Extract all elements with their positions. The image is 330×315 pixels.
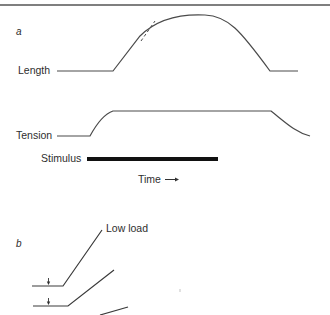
time-label: Time [138, 173, 161, 185]
tension-label: Tension [16, 129, 52, 141]
medium-load-trace [33, 270, 114, 306]
high-load-trace [100, 307, 128, 315]
muscle-contraction-figure: a Length Tension Stimulus Time b Low loa… [0, 0, 330, 315]
time-arrow-head [175, 178, 179, 182]
stimulus-label: Stimulus [41, 152, 81, 164]
tension-trace [57, 111, 310, 136]
latency-arrow-icon [47, 298, 50, 305]
tangent-dashed-line [141, 21, 155, 41]
length-trace [57, 15, 298, 71]
latency-arrow-icon [47, 278, 50, 285]
stimulus-bar [87, 157, 218, 161]
length-label: Length [18, 64, 50, 76]
low-load-label: Low load [106, 222, 148, 234]
panel-b-letter: b [16, 238, 22, 250]
low-load-trace [32, 230, 102, 286]
panel-a-letter: a [16, 26, 22, 38]
